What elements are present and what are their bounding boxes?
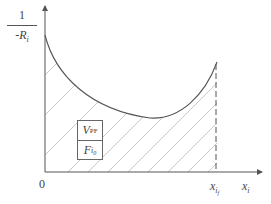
origin-label: 0: [39, 178, 45, 190]
hatched-area: [0, 0, 271, 195]
box-top-cell: VPF: [78, 121, 102, 140]
legend-box: VPF Fi0: [77, 120, 103, 160]
vpf-var: V: [82, 123, 89, 138]
x-axis-label: xi: [242, 180, 250, 195]
y-axis-label: 1 -Ri: [6, 8, 38, 44]
diagram-canvas: [0, 0, 271, 204]
vpf-sub: PF: [90, 127, 98, 135]
box-bottom-cell: Fi0: [78, 140, 102, 160]
y-label-sub: i: [27, 35, 29, 44]
fi0-var: F: [84, 143, 91, 158]
curve: [45, 35, 217, 118]
xf-label: xif: [210, 180, 219, 196]
y-label-numerator: 1: [6, 8, 38, 25]
xf-subsub: f: [218, 190, 220, 196]
x-label-sub: i: [247, 186, 249, 195]
y-label-var: R: [19, 28, 26, 42]
fi0-subsub: 0: [93, 150, 96, 156]
y-label-denominator: -Ri: [6, 26, 38, 44]
